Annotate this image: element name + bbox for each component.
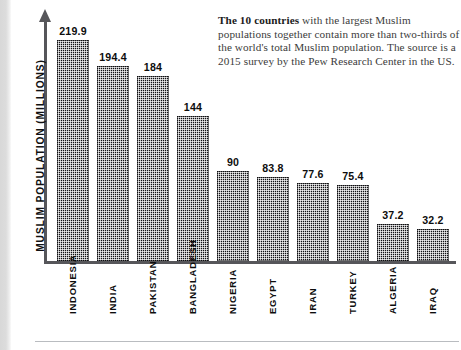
bar-india[interactable] bbox=[97, 66, 129, 261]
bar-value-label: 219.9 bbox=[53, 25, 93, 37]
y-axis-title: MUSLIM POPULATION (MILLIONS) bbox=[35, 56, 46, 256]
bar-plot-area: 219.9INDONESIA194.4INDIA184PAKISTAN144BA… bbox=[53, 20, 453, 261]
x-axis-tick-label: INDIA bbox=[107, 274, 118, 314]
bar-value-label: 77.6 bbox=[293, 168, 333, 180]
bar-iraq[interactable] bbox=[417, 229, 449, 261]
x-axis-line bbox=[44, 261, 456, 264]
bar-group: 77.6IRAN bbox=[293, 20, 333, 261]
bar-nigeria[interactable] bbox=[217, 171, 249, 261]
bar-indonesia[interactable] bbox=[57, 40, 89, 261]
bar-group: 194.4INDIA bbox=[93, 20, 133, 261]
bar-group: 32.2IRAQ bbox=[413, 20, 453, 261]
x-axis-tick-label: IRAQ bbox=[427, 274, 438, 314]
bar-group: 144BANGLADESH bbox=[173, 20, 213, 261]
bar-group: 184PAKISTAN bbox=[133, 20, 173, 261]
x-axis-tick-label: EGYPT bbox=[267, 274, 278, 314]
bar-turkey[interactable] bbox=[337, 185, 369, 261]
bar-group: 219.9INDONESIA bbox=[53, 20, 93, 261]
bar-value-label: 37.2 bbox=[373, 209, 413, 221]
bar-value-label: 144 bbox=[173, 101, 213, 113]
x-axis-tick-label: TURKEY bbox=[347, 274, 358, 314]
footer-divider bbox=[35, 341, 459, 342]
bar-value-label: 184 bbox=[133, 61, 173, 73]
bar-algeria[interactable] bbox=[377, 224, 409, 261]
page-gutter bbox=[0, 0, 11, 350]
x-axis-tick-label: BANGLADESH bbox=[187, 274, 198, 314]
bar-value-label: 90 bbox=[213, 156, 253, 168]
x-axis-tick-label: IRAN bbox=[307, 274, 318, 314]
x-axis-tick-label: PAKISTAN bbox=[147, 274, 158, 314]
bar-group: 83.8EGYPT bbox=[253, 20, 293, 261]
x-axis-tick-label: ALGERIA bbox=[387, 274, 398, 314]
bar-value-label: 75.4 bbox=[333, 170, 373, 182]
bar-group: 37.2ALGERIA bbox=[373, 20, 413, 261]
chart-figure: The 10 countries with the largest Muslim… bbox=[11, 0, 461, 350]
bar-iran[interactable] bbox=[297, 183, 329, 261]
bar-value-label: 83.8 bbox=[253, 162, 293, 174]
bar-pakistan[interactable] bbox=[137, 76, 169, 261]
bar-group: 90NIGERIA bbox=[213, 20, 253, 261]
x-axis-tick-label: INDONESIA bbox=[67, 274, 78, 314]
x-axis-tick-label: NIGERIA bbox=[227, 274, 238, 314]
bar-value-label: 32.2 bbox=[413, 214, 453, 226]
bar-value-label: 194.4 bbox=[93, 51, 133, 63]
bar-egypt[interactable] bbox=[257, 177, 289, 261]
bar-group: 75.4TURKEY bbox=[333, 20, 373, 261]
